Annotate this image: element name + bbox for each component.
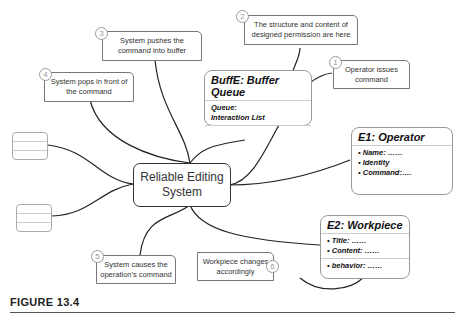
blank-node-bottom xyxy=(16,204,52,232)
entity-operator: E1: Operator • Name: ……• Identity• Comma… xyxy=(351,127,453,195)
central-label-2: System xyxy=(140,185,223,200)
buffer-title: BuffE: Buffer Queue xyxy=(205,71,311,101)
callout-5-line1: System causes the xyxy=(100,260,171,270)
callout-1-line2: command xyxy=(345,75,398,85)
operator-title: E1: Operator xyxy=(352,128,452,146)
blank-node-top xyxy=(12,132,48,160)
workpiece-field-title: • Title: …… xyxy=(327,236,403,246)
callout-2-line2: designed permission are here xyxy=(252,30,351,40)
callout-1-line1: Operator issues xyxy=(345,65,398,75)
buffer-empty-section xyxy=(205,126,311,136)
entity-workpiece: E2: Workpiece • Title: ……• Content: …… •… xyxy=(320,215,410,279)
central-label-1: Reliable Editing xyxy=(140,170,223,185)
step-6-badge: 6 xyxy=(266,260,279,273)
operator-field-command: • Command:…. xyxy=(358,168,446,178)
callout-5-line2: operation's command xyxy=(100,270,171,280)
workpiece-behavior: • behavior: …… xyxy=(321,259,409,273)
callout-3-line1: System pushes the xyxy=(118,36,186,46)
step-3-badge: 3 xyxy=(95,27,108,40)
callout-4: System pops in front ofthe command xyxy=(44,72,134,102)
workpiece-title: E2: Workpiece xyxy=(321,216,409,234)
callout-6: Workpiece changesaccordingly xyxy=(197,252,274,281)
step-2-badge: 2 xyxy=(236,10,249,23)
callout-1: Operator issuescommand xyxy=(333,60,410,89)
callout-4-line1: System pops in front of xyxy=(51,77,128,87)
buffer-field-queue: Queue: xyxy=(211,103,305,113)
operator-fields: • Name: ……• Identity• Command:…. xyxy=(352,146,452,180)
callout-6-line1: Workpiece changes xyxy=(203,257,269,267)
entity-buffer-queue: BuffE: Buffer Queue Queue:Interaction Li… xyxy=(204,70,312,126)
callout-6-line2: accordingly xyxy=(203,267,269,277)
operator-field-identity: • Identity xyxy=(358,158,446,168)
callout-3: System pushes thecommand into buffer xyxy=(102,31,202,61)
figure-caption: FIGURE 13.4 xyxy=(10,296,79,308)
callout-5: System causes theoperation's command xyxy=(96,255,176,284)
central-node: Reliable EditingSystem xyxy=(133,163,231,207)
step-4-badge: 4 xyxy=(39,68,52,81)
step-5-badge: 5 xyxy=(91,250,104,263)
callout-2: The structure and content ofdesigned per… xyxy=(244,15,358,45)
step-1-badge: 1 xyxy=(329,56,342,69)
buffer-field-interaction-list: Interaction List xyxy=(211,113,305,123)
mind-map-diagram: Reliable EditingSystem System pushes the… xyxy=(0,0,463,318)
callout-4-line2: the command xyxy=(51,87,128,97)
callout-3-line2: command into buffer xyxy=(118,46,186,56)
caption-rule xyxy=(10,312,455,313)
buffer-fields: Queue:Interaction List xyxy=(205,101,311,126)
workpiece-fields: • Title: ……• Content: …… xyxy=(321,234,409,259)
operator-field-name: • Name: …… xyxy=(358,148,446,158)
workpiece-field-content: • Content: …… xyxy=(327,246,403,256)
callout-2-line1: The structure and content of xyxy=(252,20,351,30)
